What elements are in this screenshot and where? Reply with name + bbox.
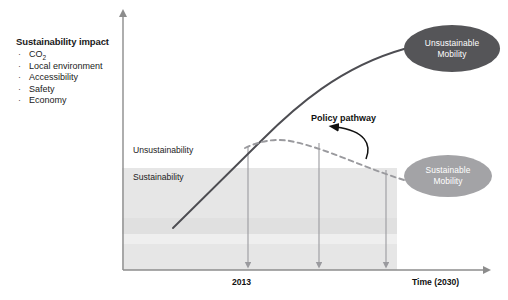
list-item-label: Accessibility	[29, 72, 78, 82]
callout-line-2: Mobility	[426, 176, 471, 187]
diagram-canvas: Sustainability impact ·CO2 ·Local enviro…	[0, 0, 508, 300]
list-item: ·Economy	[16, 95, 126, 107]
list-item: ·Safety	[16, 84, 126, 96]
x-axis-label: Time (2030)	[412, 277, 459, 287]
bullet-icon: ·	[18, 72, 21, 84]
legend-title: Sustainability impact	[16, 36, 126, 48]
list-item: ·Accessibility	[16, 72, 126, 84]
bullet-icon: ·	[18, 49, 21, 61]
list-item: ·Local environment	[16, 61, 126, 73]
list-item: ·CO2	[16, 49, 126, 61]
callout-line-1: Sustainable	[426, 165, 471, 176]
policy-pathway-label: Policy pathway	[311, 113, 376, 124]
callout-line-1: Unsustainable	[425, 38, 479, 49]
list-item-label: Economy	[29, 95, 67, 105]
sustainability-band	[122, 168, 397, 270]
band-label-unsustainability: Unsustainability	[133, 145, 193, 155]
list-item-label: Local environment	[29, 61, 103, 71]
list-item-label: CO	[29, 49, 43, 59]
sustainability-impact-legend: Sustainability impact ·CO2 ·Local enviro…	[16, 36, 126, 107]
band-label-sustainability: Sustainability	[133, 172, 184, 182]
x-axis-tick-label-2013: 2013	[232, 277, 251, 287]
policy-pathway-arrow	[336, 127, 368, 159]
callout-unsustainable-mobility: Unsustainable Mobility	[404, 25, 500, 72]
callout-sustainable-mobility: Sustainable Mobility	[404, 155, 492, 197]
legend-item-list: ·CO2 ·Local environment ·Accessibility ·…	[16, 49, 126, 107]
bullet-icon: ·	[18, 95, 21, 107]
list-item-label: Safety	[29, 84, 55, 94]
bullet-icon: ·	[18, 84, 21, 96]
callout-line-2: Mobility	[425, 49, 479, 60]
bullet-icon: ·	[18, 61, 21, 73]
